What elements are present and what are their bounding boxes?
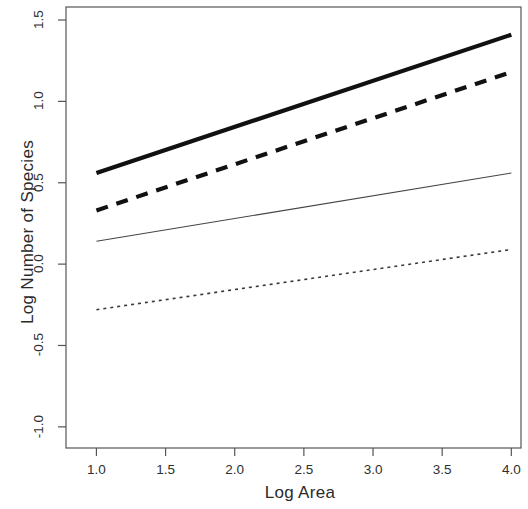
x-tick-label: 1.0 <box>74 462 118 477</box>
x-tick-label: 3.0 <box>351 462 395 477</box>
y-tick-label: 1.0 <box>31 81 46 121</box>
species-area-chart: Log Number of Species Log Area 1.01.52.0… <box>0 0 528 509</box>
y-tick-label: 0.0 <box>31 244 46 284</box>
x-tick-label: 4.0 <box>489 462 528 477</box>
data-series-group <box>96 35 511 310</box>
y-axis-title: Log Number of Species <box>18 112 38 352</box>
x-axis-ticks <box>96 448 511 456</box>
y-tick-label: -1.0 <box>31 406 46 446</box>
line-3-thin-solid <box>96 173 511 241</box>
line-1-thick-solid <box>96 35 511 173</box>
line-4-dotted <box>96 249 511 309</box>
x-axis-title: Log Area <box>180 483 420 503</box>
y-tick-label: 0.5 <box>31 162 46 202</box>
x-tick-label: 1.5 <box>144 462 188 477</box>
x-tick-label: 3.5 <box>420 462 464 477</box>
y-tick-label: -0.5 <box>31 325 46 365</box>
line-2-thick-dashed <box>96 72 511 210</box>
y-axis-ticks <box>58 20 66 427</box>
x-tick-label: 2.5 <box>282 462 326 477</box>
plot-canvas <box>0 0 528 509</box>
x-tick-label: 2.0 <box>213 462 257 477</box>
plot-frame <box>66 7 521 448</box>
y-tick-label: 1.5 <box>31 0 46 40</box>
